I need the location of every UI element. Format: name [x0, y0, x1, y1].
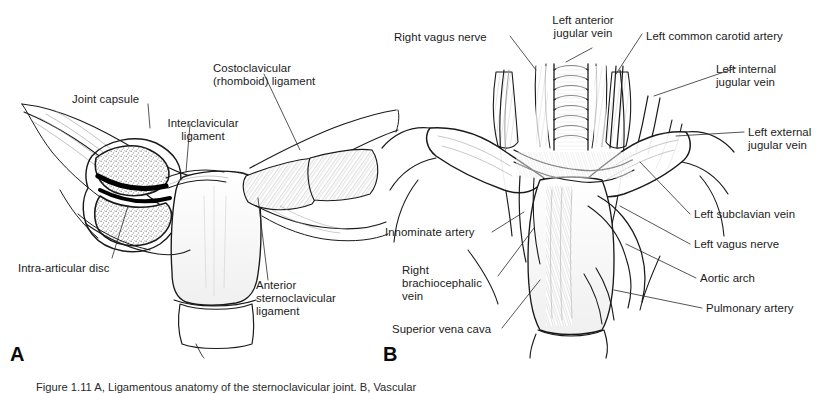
label-right-brachiocephalic-vein: Right brachiocephalic vein	[402, 264, 482, 304]
label-aortic-arch: Aortic arch	[700, 272, 755, 285]
label-intra-articular-disc: Intra-articular disc	[18, 262, 110, 275]
label-costoclavicular-ligament: Costoclavicular (rhomboid) ligament	[213, 62, 315, 88]
label-left-common-carotid-artery: Left common carotid artery	[646, 30, 783, 43]
label-right-vagus-nerve: Right vagus nerve	[394, 31, 487, 44]
label-left-anterior-jugular-vein: Left anterior jugular vein	[531, 14, 635, 40]
label-left-external-jugular-vein: Left external jugular vein	[748, 126, 811, 152]
label-pulmonary-artery: Pulmonary artery	[706, 302, 794, 315]
panel-letter-a: A	[10, 344, 25, 364]
label-interclavicular-ligament: Interclavicular ligament	[148, 117, 258, 143]
label-superior-vena-cava: Superior vena cava	[392, 323, 491, 336]
label-innominate-artery: Innominate artery	[385, 226, 475, 239]
label-left-internal-jugular-vein: Left internal jugular vein	[716, 63, 776, 89]
label-joint-capsule: Joint capsule	[72, 93, 139, 106]
panel-b-art	[382, 34, 744, 358]
label-left-subclavian-vein: Left subclavian vein	[694, 208, 795, 221]
label-anterior-sternoclavicular-ligament: Anterior sternoclavicular ligament	[256, 279, 336, 319]
label-left-vagus-nerve: Left vagus nerve	[694, 238, 779, 251]
figure-caption: Figure 1.11 A, Ligamentous anatomy of th…	[36, 380, 806, 394]
panel-letter-b: B	[383, 344, 398, 364]
